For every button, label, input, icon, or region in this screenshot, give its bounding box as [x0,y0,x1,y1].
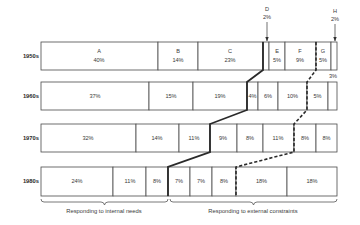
row-1970s: 1970s 32% 14% 11% 9% 8% 11% 8% 8% [23,124,337,152]
callout-d: D 2% [263,6,271,42]
segment-a [41,42,158,70]
segment-a-letter: A [97,48,101,54]
callout-d-value: 2% [263,14,271,20]
callout-h: H 2% [331,8,339,42]
segment-1970s-4-value: 9% [219,135,227,141]
segment-e-value: 5% [273,57,281,63]
segment-g-value: 5% [319,57,327,63]
segment-1960s-1-value: 37% [89,93,100,99]
segment-1970s-2-value: 14% [151,135,162,141]
segment-g-letter: G [321,48,325,54]
segment-f [285,42,316,70]
segment-f-value: 9% [296,57,304,63]
segment-1960s-2-value: 15% [165,93,176,99]
segment-1980s-1-value: 24% [71,178,82,184]
segment-1960s-3-value: 19% [214,93,225,99]
segment-e-letter: E [275,48,279,54]
row-1980s: 1980s 24% 11% 8% 7% 7% 8% 18% 18% [23,167,337,196]
arrow-down-icon [333,37,336,42]
row-label-1980s: 1980s [23,178,39,184]
segment-e [269,42,285,70]
segment-1980s-4-value: 7% [175,178,183,184]
group-label-external: Responding to external constraints [208,208,297,214]
segment-f-letter: F [298,48,302,54]
segment-1960s-4-value: 4% [248,93,256,99]
segment-1970s-1-value: 32% [82,135,93,141]
row-1960s: 1960s 37% 15% 19% 4% 6% 10% 5% [23,82,337,110]
segment-c [198,42,263,70]
row-label-1970s: 1970s [23,135,39,141]
segment-1980s-8-value: 18% [306,178,317,184]
arrow-down-icon [265,37,268,42]
segment-1980s-2-value: 11% [125,178,136,184]
segment-1960s-5-value: 6% [264,93,272,99]
group-label-internal: Responding to internal needs [66,208,142,214]
segment-1970s-6-value: 11% [273,135,284,141]
row-label-1950s: 1950s [23,53,39,59]
segment-1980s-5-value: 7% [197,178,205,184]
segment-1980s-3-value: 8% [153,178,161,184]
segment-1970s-8-value: 8% [322,135,330,141]
segment-c-value: 23% [224,57,235,63]
segment-a-value: 40% [93,57,104,63]
segment-1980s-6-value: 8% [220,178,228,184]
segment-h [331,42,337,70]
segment-1960s-7-value: 5% [313,93,321,99]
segment-1960s-8 [328,82,337,110]
segment-b-value: 14% [172,57,183,63]
callout-d-letter: D [265,6,269,12]
segment-b-letter: B [176,48,180,54]
stacked-bar-diagram: 1950s A 40% B 14% C 23% E 5% F 9% G 5% D… [0,0,360,225]
segment-1980s-7-value: 18% [256,178,267,184]
segment-1970s-3-value: 11% [189,135,200,141]
segment-b [158,42,198,70]
segment-1970s-7-value: 8% [301,135,309,141]
segment-1970s-5-value: 8% [246,135,254,141]
segment-c-letter: C [228,48,232,54]
callout-h-value: 2% [331,16,339,22]
brace-internal [41,199,168,205]
callout-h-letter: H [333,8,337,14]
row-label-1960s: 1960s [23,93,39,99]
brace-external [170,199,337,205]
segment-1960s-6-value: 10% [287,93,298,99]
segment-g [316,42,331,70]
row-1950s: 1950s A 40% B 14% C 23% E 5% F 9% G 5% [23,42,337,70]
callout-1960s-3pct: 3% [329,73,337,79]
